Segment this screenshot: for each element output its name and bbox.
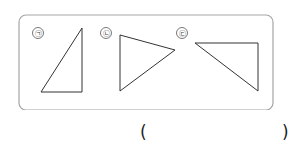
figure-c: ㉢ [177, 28, 259, 92]
triangle-a [41, 28, 82, 92]
figure-a: ㉠ [33, 28, 83, 93]
answer-open-paren: ( [140, 122, 147, 142]
answer-close-paren: ) [282, 122, 289, 142]
label-a: ㉠ [35, 30, 42, 38]
triangle-c [195, 43, 258, 91]
figure-b: ㉡ [101, 28, 176, 92]
figure-frame [19, 15, 273, 110]
answer-blank[interactable] [152, 124, 278, 142]
label-c: ㉢ [179, 30, 186, 38]
label-b: ㉡ [103, 30, 110, 38]
figure-box: ㉠ ㉡ ㉢ [0, 0, 293, 110]
triangle-b [120, 35, 175, 91]
